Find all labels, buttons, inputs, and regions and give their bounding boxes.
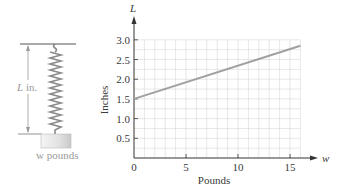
x-axis-variable: w xyxy=(322,152,330,164)
x-tick-label: 5 xyxy=(183,161,189,173)
weight-block xyxy=(41,134,71,148)
x-axis-arrow-icon xyxy=(310,156,318,161)
y-tick-label: 1.0 xyxy=(116,113,130,125)
y-axis-variable: L xyxy=(129,2,136,14)
length-label: L in. xyxy=(16,81,37,93)
y-tick-label: 2.0 xyxy=(116,73,130,85)
y-tick-label: 3.0 xyxy=(116,34,130,46)
arrow-down-icon xyxy=(26,127,30,133)
x-tick-label: 0 xyxy=(131,161,137,173)
x-tick-label: 10 xyxy=(233,161,245,173)
y-axis-arrow-icon xyxy=(132,16,137,24)
arrow-up-icon xyxy=(26,45,30,51)
figure-canvas: L in. w pounds L w 0.51.01.52.02.53.0 05… xyxy=(0,0,341,192)
line-chart: L w 0.51.01.52.02.53.0 051015 Inches Pou… xyxy=(98,2,330,186)
x-tick-labels: 051015 xyxy=(131,154,296,173)
spring-icon xyxy=(50,44,61,134)
y-tick-label: 0.5 xyxy=(116,132,130,144)
y-tick-label: 2.5 xyxy=(116,54,130,66)
y-axis-label: Inches xyxy=(98,86,110,115)
weight-label: w pounds xyxy=(36,149,78,161)
spring-diagram: L in. w pounds xyxy=(14,44,78,161)
chart-grid xyxy=(134,40,300,158)
x-axis-label: Pounds xyxy=(198,174,230,186)
y-tick-label: 1.5 xyxy=(116,93,130,105)
x-tick-label: 15 xyxy=(285,161,297,173)
